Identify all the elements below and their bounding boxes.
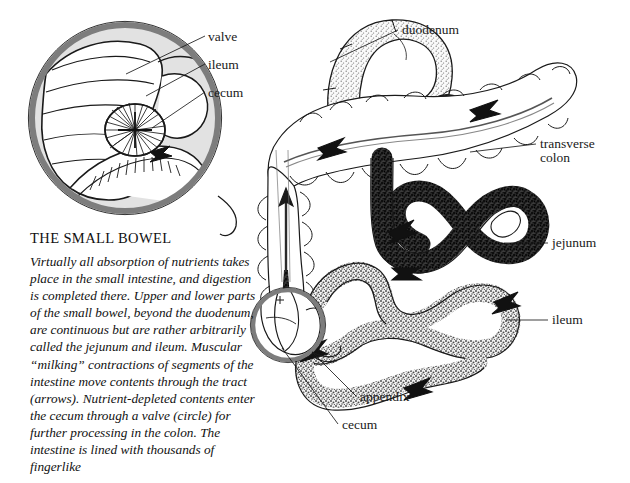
- ileocecal-valve: [105, 103, 165, 156]
- label-duodenum: duodenum: [402, 23, 459, 37]
- caption-title: THE SMALL BOWEL: [30, 230, 262, 247]
- label-ileum: ileum: [552, 313, 583, 327]
- label-transverse-colon-line1: transverse: [540, 137, 595, 151]
- label-ileum-inset: ileum: [208, 58, 239, 72]
- transverse-colon: [268, 63, 577, 189]
- label-valve: valve: [208, 30, 237, 44]
- label-cecum: cecum: [342, 418, 377, 432]
- label-transverse-colon-line2: colon: [540, 151, 570, 165]
- label-jejunum: jejunum: [552, 236, 596, 250]
- jejunum-loops: [371, 158, 539, 273]
- label-cecum-inset: cecum: [208, 86, 243, 100]
- label-appendix: appendix: [360, 390, 410, 404]
- illustration-page: valve ileum cecum duodenum transverse co…: [0, 0, 630, 483]
- caption-body: Virtually all absorption of nutrients ta…: [30, 253, 262, 475]
- valve-inset-circle: [28, 21, 221, 214]
- caption-block: THE SMALL BOWEL Virtually all absorption…: [30, 230, 262, 475]
